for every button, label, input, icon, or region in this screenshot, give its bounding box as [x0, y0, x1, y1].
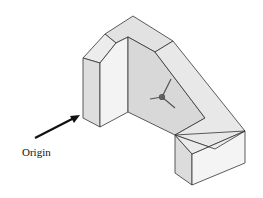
origin-label: Origin	[22, 146, 51, 158]
origin-arrow-icon	[35, 115, 80, 138]
isometric-part-drawing	[0, 0, 263, 198]
left-outer-face	[83, 58, 100, 127]
